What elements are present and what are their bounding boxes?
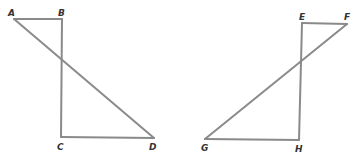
figure-left: A B C D (7, 8, 157, 152)
label-d: D (149, 142, 157, 152)
label-g: G (201, 143, 208, 153)
segment-ef (302, 23, 347, 24)
diagram-canvas: A B C D E F G H (0, 0, 360, 161)
segment-ad (14, 19, 154, 138)
label-h: H (295, 144, 303, 154)
label-f: F (344, 12, 351, 22)
segment-eh (299, 23, 302, 140)
segment-fg (205, 24, 347, 139)
figure-right: E F G H (201, 12, 351, 154)
segment-bc (61, 19, 62, 137)
label-c: C (57, 142, 64, 152)
label-b: B (58, 8, 65, 18)
label-a: A (7, 8, 15, 18)
label-e: E (299, 12, 306, 22)
segment-cd (61, 137, 154, 138)
segment-gh (205, 139, 299, 140)
